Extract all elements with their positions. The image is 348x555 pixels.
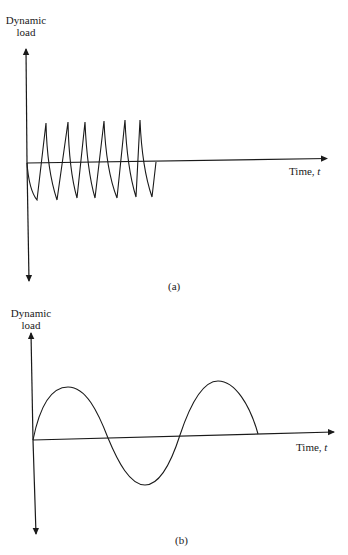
figure-graphics [0,0,348,555]
panel-a-y-axis-down [27,163,29,281]
panel-a-sawtooth-curve [27,120,156,200]
panel-b-x-axis-label-text: Time, [296,441,324,453]
panel-b-sine-curve [33,381,258,485]
panel-a-caption: (a) [168,280,180,292]
dynamic-load-figure: Dynamic load Time, t (a) Dynamic load Ti… [0,0,348,555]
panel-a-y-axis-label-line2: load [0,26,56,38]
panel-b-y-axis-up [31,333,33,440]
panel-b-y-axis-label-line2: load [1,319,61,331]
panel-a-y-axis-label-line1: Dynamic [0,14,56,26]
panel-b-y-axis-down [33,440,36,534]
panel-b-axes [31,333,334,534]
panel-a-x-axis-label-text: Time, [289,165,317,177]
panel-a-x-axis-variable: t [317,165,320,177]
panel-a-y-axis-label: Dynamic load [0,14,56,38]
panel-b-x-axis-variable: t [324,441,327,453]
panel-b-time-axis [33,432,334,440]
panel-a-time-axis [27,159,327,164]
panel-a-x-axis-label: Time, t [289,165,320,177]
panel-b-y-axis-label-line1: Dynamic [1,307,61,319]
panel-b-x-axis-label: Time, t [296,441,327,453]
panel-a-y-axis-up [26,49,27,163]
panel-b-caption: (b) [175,534,188,546]
panel-b-y-axis-label: Dynamic load [1,307,61,331]
